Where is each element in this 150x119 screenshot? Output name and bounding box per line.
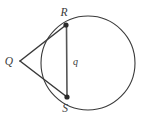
label-vertex-q: Q <box>5 55 14 67</box>
label-point-s: S <box>62 102 68 114</box>
segment-qr <box>20 25 66 61</box>
geometry-figure-canvas: R Q S q <box>0 0 150 119</box>
point-marker-r <box>63 22 68 27</box>
segment-qs <box>20 61 67 97</box>
point-marker-s <box>64 94 69 99</box>
circle-shape <box>41 16 135 110</box>
geometry-diagram: R Q S q <box>0 0 150 119</box>
label-point-r: R <box>59 6 67 18</box>
label-chord-q: q <box>73 56 78 67</box>
segment-rs-chord <box>67 25 68 97</box>
